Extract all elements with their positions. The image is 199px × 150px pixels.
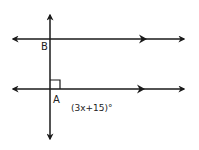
right-angle-marker-icon bbox=[50, 80, 60, 89]
geometry-diagram: B A (3x+15)° bbox=[0, 0, 199, 150]
point-b-label: B bbox=[41, 41, 48, 52]
angle-measure-label: (3x+15)° bbox=[71, 103, 113, 113]
point-a-label: A bbox=[53, 94, 60, 105]
